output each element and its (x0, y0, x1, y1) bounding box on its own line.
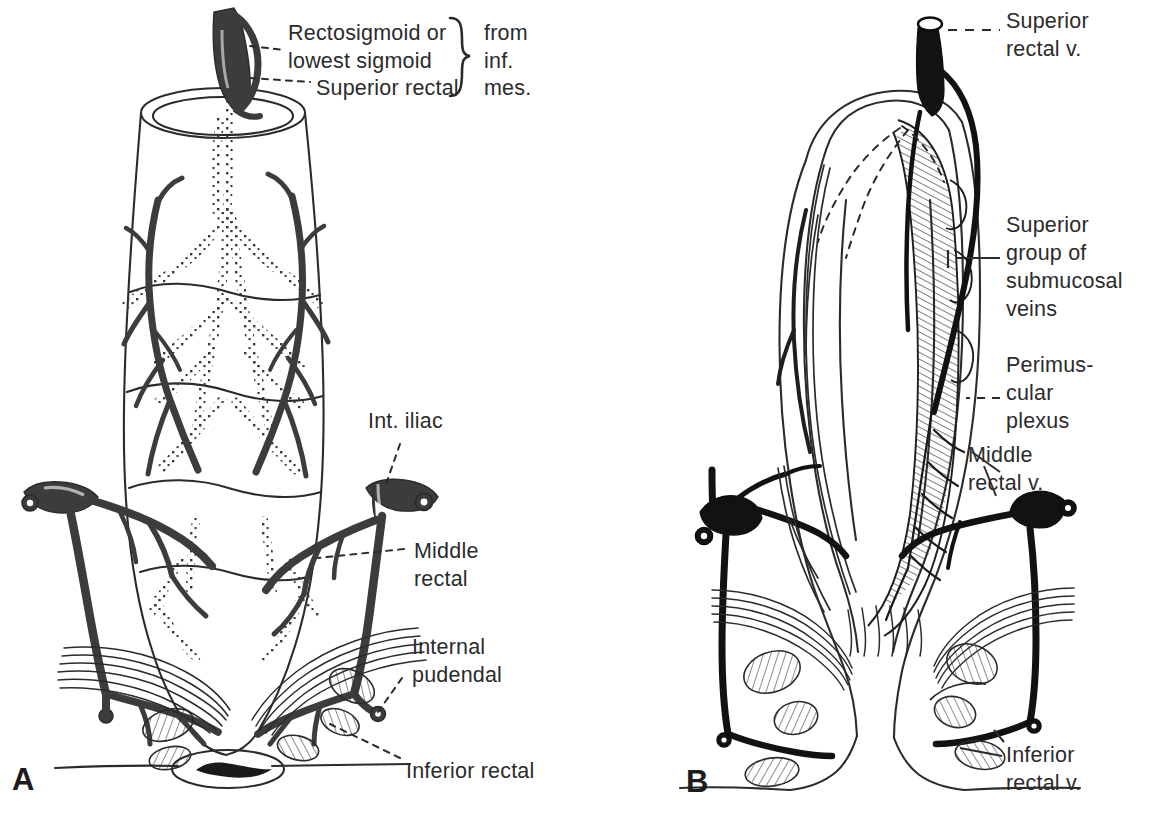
label-internal-pudendal-line2: pudendal (412, 663, 502, 687)
label-internal-pudendal-line1: Internal (412, 635, 485, 659)
label-middle-rectal-v-line2: rectal v. (968, 471, 1043, 495)
label-inferior-rectal: Inferior rectal (406, 759, 534, 783)
label-inferior-rectal-v-line2: rectal v. (1006, 771, 1081, 795)
label-rectosigmoid-line1: Rectosigmoid or (288, 21, 446, 45)
label-middle-rectal-v-line1: Middle (968, 443, 1033, 467)
anatomy-illustration: Rectosigmoid or lowest sigmoid Superior … (0, 0, 1149, 826)
label-superior-rectal-v-line1: Superior (1006, 9, 1089, 33)
label-perimuscular-line1: Perimus- (1006, 353, 1094, 377)
label-inf: inf. (484, 49, 513, 73)
figure-canvas: Rectosigmoid or lowest sigmoid Superior … (0, 0, 1149, 826)
label-middle-rectal-line2: rectal (414, 567, 468, 591)
label-perimuscular-line3: plexus (1006, 409, 1069, 433)
label-rectosigmoid-line2: lowest sigmoid (288, 49, 432, 73)
panel-letter-a: A (12, 762, 34, 797)
label-inferior-rectal-v-line1: Inferior (1006, 743, 1075, 767)
label-perimuscular-line2: cular (1006, 381, 1054, 405)
label-submucosal-line1: Superior (1006, 213, 1089, 237)
label-superior-rectal: Superior rectal (316, 76, 459, 100)
label-submucosal-line2: group of (1006, 241, 1087, 265)
label-submucosal-line4: veins (1006, 297, 1057, 321)
label-submucosal-line3: submucosal (1006, 269, 1123, 293)
panel-letter-b: B (686, 764, 708, 799)
label-int-iliac: Int. iliac (368, 409, 443, 433)
label-mes: mes. (484, 76, 531, 100)
label-superior-rectal-v-line2: rectal v. (1006, 37, 1081, 61)
label-from: from (484, 21, 528, 45)
label-middle-rectal-line1: Middle (414, 539, 479, 563)
